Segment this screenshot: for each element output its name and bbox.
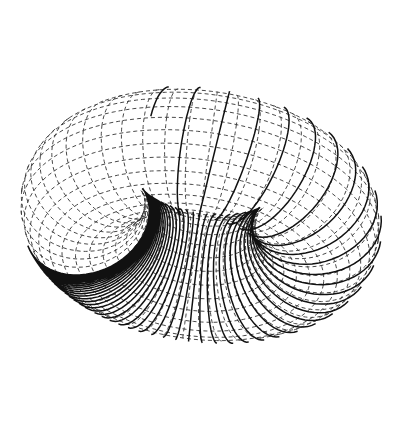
toroidal-grid-line: [104, 89, 323, 131]
torus-wireframe: [0, 0, 407, 423]
poloidal-grid-line: [254, 215, 373, 293]
poloidal-grid-line: [66, 109, 143, 223]
toroidal-grid-line: [41, 98, 372, 191]
torus-coil-diagram: [0, 0, 407, 423]
toroidal-grid-line: [21, 117, 378, 243]
